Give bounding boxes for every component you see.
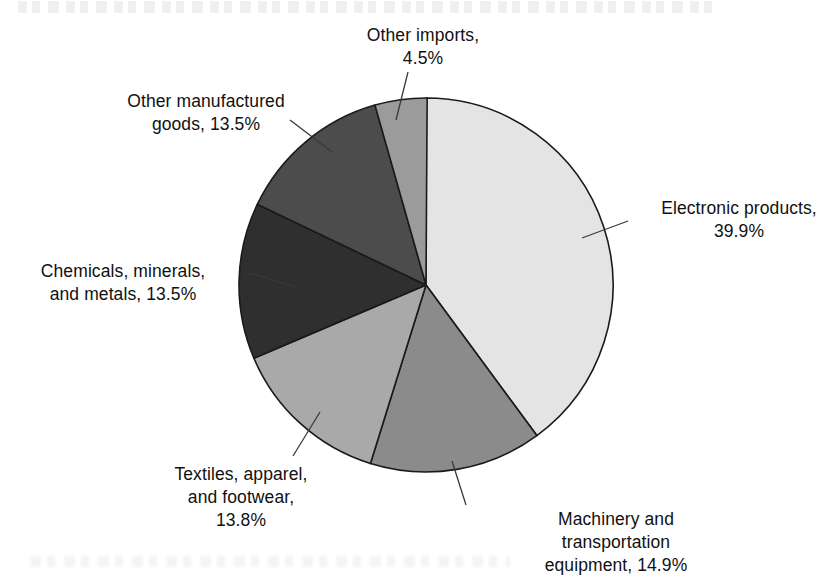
pie-slice-group xyxy=(239,98,613,472)
pie-chart-figure: Other imports, 4.5% Other manufactured g… xyxy=(0,0,830,587)
pie-label-chemicals-minerals-and-metals: Chemicals, minerals, and metals, 13.5% xyxy=(0,260,246,306)
pie-label-machinery-and-transportation-equipment: Machinery and transportation equipment, … xyxy=(470,508,762,577)
pie-label-textiles-apparel-and-footwear: Textiles, apparel, and footwear, 13.8% xyxy=(112,463,370,532)
pie-label-electronic-products: Electronic products, 39.9% xyxy=(634,197,830,243)
pie-label-other-manufactured-goods: Other manufactured goods, 13.5% xyxy=(70,90,342,136)
pie-label-other-imports: Other imports, 4.5% xyxy=(298,24,548,70)
